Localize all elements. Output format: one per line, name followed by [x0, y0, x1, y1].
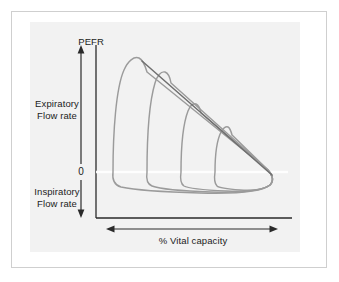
vital-capacity-axis-label: % Vital capacity [128, 235, 258, 247]
flow-volume-loop-2 [147, 72, 273, 192]
vital-capacity-range-arrow [106, 226, 278, 233]
zero-flow-label: 0 [74, 166, 88, 178]
inspiratory-flow-rate-label: Inspiratory Flow rate [24, 186, 90, 209]
flow-volume-loop-3 [181, 104, 273, 191]
inspiratory-flow-rate-label-line2: Flow rate [24, 198, 90, 210]
expiratory-flow-rate-label-line1: Expiratory [26, 98, 88, 110]
pefr-label: PEFR [56, 36, 104, 48]
chart-axes [96, 45, 292, 218]
flow-volume-loop-4 [215, 127, 273, 191]
expiratory-flow-rate-label-line2: Flow rate [26, 110, 88, 122]
figure-page: PEFR Expiratory Flow rate 0 Inspiratory … [0, 0, 339, 282]
expiratory-flow-rate-label: Expiratory Flow rate [26, 98, 88, 121]
inspiratory-flow-rate-label-line1: Inspiratory [24, 186, 90, 198]
descending-flow-envelope [142, 61, 272, 175]
